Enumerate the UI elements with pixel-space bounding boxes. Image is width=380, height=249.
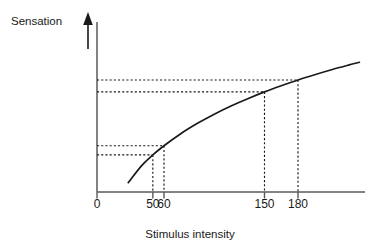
y-axis-arrow-icon xyxy=(83,12,93,49)
y-axis-arrow-head xyxy=(83,12,93,25)
x-axis-tick-label-150: 150 xyxy=(254,198,274,210)
x-axis-tick-label-180: 180 xyxy=(288,198,308,210)
guide-lines xyxy=(97,80,298,192)
x-axis-tick-label-0: 0 xyxy=(94,198,101,210)
chart-figure: Sensation Stimulus intensity 05060150180 xyxy=(0,0,380,249)
chart-plot-area xyxy=(0,0,380,249)
y-axis-title: Sensation xyxy=(11,16,62,28)
sensation-curve xyxy=(128,62,359,182)
x-axis-tick-label-60: 60 xyxy=(157,198,170,210)
x-axis-title: Stimulus intensity xyxy=(0,229,380,241)
